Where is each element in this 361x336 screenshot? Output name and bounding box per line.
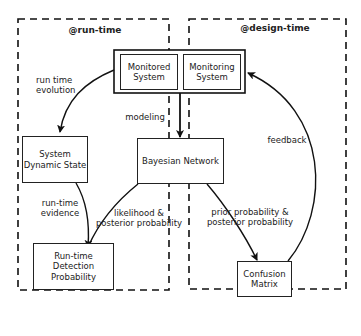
edge-label-prior-posterior: prior probability & posterior probabilit… xyxy=(206,207,294,227)
node-monitoring-system: Monitoring System xyxy=(183,54,241,90)
designtime-region-title: @design-time xyxy=(240,23,310,33)
node-confusion-matrix: Confusion Matrix xyxy=(237,261,292,297)
edge-label-feedback: feedback xyxy=(262,135,312,145)
node-monitored-system: Monitored System xyxy=(120,54,178,90)
edge-label-run-time-evolution: run time evolution xyxy=(36,75,82,95)
node-system-dynamic-state: System Dynamic State xyxy=(22,136,88,183)
runtime-region-title: @run-time xyxy=(60,25,130,35)
edge-label-run-time-evidence: run-time evidence xyxy=(38,198,82,218)
edge-label-modeling: modeling xyxy=(124,112,166,122)
edge-label-likelihood-posterior: likelihood & posterior probability xyxy=(94,208,184,228)
node-bayesian-network: Bayesian Network xyxy=(137,138,224,184)
node-runtime-detection-probability: Run-time Detection Probability xyxy=(33,243,114,290)
